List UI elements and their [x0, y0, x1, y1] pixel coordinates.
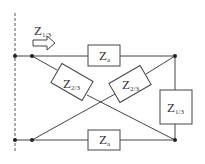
- top-impedance-label: Za: [99, 49, 110, 64]
- diag-wire-a1: [32, 56, 57, 70]
- node-dot: [173, 138, 177, 142]
- diag-wire-b2: [146, 56, 175, 74]
- shunt-impedance-label: Z1/3: [167, 101, 184, 116]
- input-impedance-label: Z1/3: [34, 24, 51, 39]
- node-dot: [173, 54, 177, 58]
- diag-left-impedance-label: Z2/3: [63, 77, 80, 92]
- node-dot: [13, 138, 17, 142]
- node-dot: [13, 54, 17, 58]
- node-dot: [30, 138, 34, 142]
- node-dot: [30, 54, 34, 58]
- bottom-impedance-label: Za: [99, 133, 110, 148]
- diag-right-impedance-label: Z2/3: [122, 78, 139, 93]
